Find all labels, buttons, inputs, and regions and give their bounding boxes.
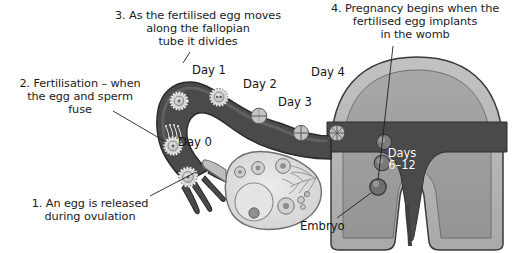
label-days-6-12: Days 6–12 <box>376 147 428 172</box>
label-day-4: Day 4 <box>311 66 345 78</box>
label-day-0: Day 0 <box>178 136 212 148</box>
annotation-step-1: 1. An egg is released during ovulation <box>14 197 166 223</box>
label-day-3: Day 3 <box>278 96 312 108</box>
egg-day0-ovulated <box>179 168 197 186</box>
embryo-day3-four-cell <box>293 125 308 140</box>
diagram-canvas: 1. An egg is released during ovulation 2… <box>0 0 520 253</box>
embryo-labelled-highlight <box>373 181 379 187</box>
leader-step-3 <box>183 52 190 63</box>
embryo-day2-cleavage <box>210 88 227 105</box>
label-day-2: Day 2 <box>243 78 277 90</box>
annotation-step-4: 4. Pregnancy begins when the fertilised … <box>315 2 515 42</box>
corpus-luteum-core <box>249 208 259 218</box>
annotation-step-3: 3. As the fertilised egg moves along the… <box>104 9 292 49</box>
annotation-step-2: 2. Fertilisation – when the egg and sper… <box>4 77 156 117</box>
embryo-day2-two-cell <box>251 108 267 124</box>
ovary-group <box>202 151 321 229</box>
embryo-labelled <box>370 179 386 195</box>
embryo-day4-morula <box>329 125 345 141</box>
zygote-day1 <box>171 93 188 110</box>
label-embryo: Embryo <box>300 220 345 232</box>
label-day-1: Day 1 <box>192 64 226 76</box>
